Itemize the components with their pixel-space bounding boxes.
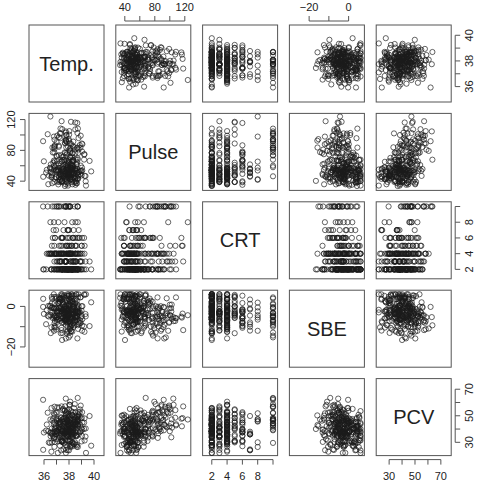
diagonal-variable-label: Temp. — [39, 53, 93, 75]
svg-text:80: 80 — [5, 144, 17, 156]
svg-text:36: 36 — [38, 470, 50, 482]
svg-text:8: 8 — [255, 470, 261, 482]
panel-sbe-vs-crt — [203, 290, 278, 367]
svg-text:70: 70 — [435, 470, 447, 482]
panel-sbe-vs-temp — [29, 290, 104, 367]
svg-text:0: 0 — [5, 303, 17, 309]
panel-sbe-vs-pulse — [116, 290, 191, 367]
panel-crt-vs-temp — [29, 202, 104, 279]
svg-text:50: 50 — [409, 470, 421, 482]
bottom-axis-temp: 363840 — [38, 460, 100, 482]
top-axis-sbe: −200 — [300, 1, 352, 21]
svg-text:40: 40 — [463, 29, 475, 41]
panel-sbe-vs-pcv — [376, 290, 451, 367]
svg-text:40: 40 — [5, 175, 17, 187]
svg-text:−20: −20 — [300, 1, 319, 13]
svg-text:30: 30 — [383, 470, 395, 482]
svg-text:38: 38 — [463, 55, 475, 67]
panel-temp-vs-pulse — [116, 25, 191, 102]
panel-sbe-vs-sbe: SBE — [289, 290, 364, 367]
svg-text:4: 4 — [224, 470, 230, 482]
panel-crt-vs-pcv — [376, 202, 451, 279]
panel-pulse-vs-pulse: Pulse — [116, 113, 191, 190]
right-axis-temp: 363840 — [455, 29, 475, 93]
diagonal-variable-label: PCV — [393, 406, 435, 428]
scatterplot-matrix: Temp.PulseCRTSBEPCV 36384036384040801204… — [0, 0, 480, 489]
panel-pcv-vs-sbe — [289, 379, 364, 456]
svg-text:40: 40 — [119, 1, 131, 13]
svg-text:0: 0 — [346, 1, 352, 13]
svg-text:6: 6 — [239, 470, 245, 482]
diagonal-variable-label: CRT — [220, 229, 261, 251]
svg-text:38: 38 — [63, 470, 75, 482]
svg-text:120: 120 — [176, 1, 194, 13]
bottom-axis-crt: 2468 — [209, 460, 273, 482]
panel-pulse-vs-temp — [29, 113, 104, 190]
panel-pulse-vs-sbe — [289, 113, 364, 190]
panel-pcv-vs-temp — [29, 379, 104, 456]
bottom-axis-pcv: 305070 — [383, 460, 447, 482]
diagonal-variable-label: SBE — [307, 318, 347, 340]
panel-crt-vs-sbe — [289, 202, 364, 279]
svg-text:70: 70 — [463, 383, 475, 395]
panel-grid: Temp.PulseCRTSBEPCV — [29, 25, 451, 456]
panel-temp-vs-pcv — [376, 25, 451, 102]
panel-pcv-vs-pulse — [116, 379, 191, 456]
svg-text:4: 4 — [463, 251, 475, 257]
panel-crt-vs-crt: CRT — [203, 202, 278, 279]
svg-text:50: 50 — [463, 410, 475, 422]
svg-text:40: 40 — [88, 470, 100, 482]
svg-text:80: 80 — [149, 1, 161, 13]
panel-crt-vs-pulse — [116, 202, 191, 279]
panel-pulse-vs-pcv — [376, 113, 451, 190]
panel-temp-vs-temp: Temp. — [29, 25, 104, 102]
svg-text:30: 30 — [463, 436, 475, 448]
right-axis-crt: 2468 — [455, 207, 475, 273]
panel-pcv-vs-crt — [203, 379, 278, 456]
panel-pulse-vs-crt — [203, 113, 278, 190]
panel-temp-vs-crt — [203, 25, 278, 102]
left-axis-pulse: 4080120 — [5, 110, 25, 187]
svg-text:6: 6 — [463, 235, 475, 241]
svg-text:120: 120 — [5, 110, 17, 128]
right-axis-pcv: 305070 — [455, 383, 475, 448]
svg-text:2: 2 — [209, 470, 215, 482]
left-axis-sbe: −200 — [5, 303, 25, 356]
svg-text:−20: −20 — [5, 338, 17, 357]
svg-text:2: 2 — [463, 266, 475, 272]
panel-pcv-vs-pcv: PCV — [376, 379, 451, 456]
svg-text:36: 36 — [463, 80, 475, 92]
diagonal-variable-label: Pulse — [128, 141, 178, 163]
top-axis-pulse: 4080120 — [119, 1, 194, 21]
svg-text:8: 8 — [463, 219, 475, 225]
panel-temp-vs-sbe — [289, 25, 364, 102]
